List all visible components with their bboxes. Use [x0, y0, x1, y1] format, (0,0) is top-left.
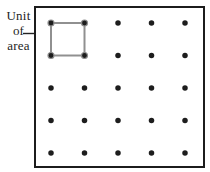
grid-dot: [149, 53, 155, 59]
grid-dot: [182, 150, 188, 156]
grid-dot: [182, 85, 188, 91]
grid-dot: [149, 150, 155, 156]
dot-grid-board: [0, 0, 210, 172]
grid-dot: [48, 118, 54, 124]
unit-square-corner-dot: [82, 53, 88, 59]
unit-square-corner-dot: [48, 53, 54, 59]
grid-dot: [115, 150, 121, 156]
grid-dot: [115, 53, 121, 59]
unit-square-corner-dot: [48, 20, 54, 26]
grid-dot: [115, 118, 121, 124]
grid-dot: [82, 85, 88, 91]
grid-dot: [48, 150, 54, 156]
grid-dot: [82, 150, 88, 156]
grid-dot: [149, 118, 155, 124]
geoboard-figure: Unit of area: [0, 0, 210, 172]
unit-square-corner-dot: [82, 20, 88, 26]
grid-dot: [115, 20, 121, 26]
grid-dot: [149, 20, 155, 26]
grid-dot: [82, 118, 88, 124]
grid-dot: [182, 53, 188, 59]
grid-dot: [149, 85, 155, 91]
grid-dot: [182, 20, 188, 26]
grid-dot: [48, 85, 54, 91]
grid-dot: [182, 118, 188, 124]
grid-dot: [115, 85, 121, 91]
